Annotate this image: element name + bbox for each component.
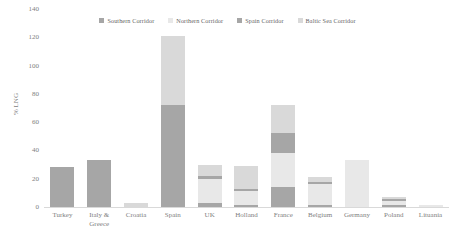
bar-stack[interactable] <box>50 167 74 207</box>
y-tick-label: 120 <box>29 33 40 41</box>
bar-segment[interactable] <box>271 133 295 153</box>
bar-column[interactable] <box>81 9 118 207</box>
bar-stack[interactable] <box>234 166 258 207</box>
x-axis-labels: TurkeyItaly &GreeceCroatiaSpainUKHolland… <box>44 211 449 228</box>
bar-stack[interactable] <box>345 160 369 207</box>
bar-column[interactable] <box>154 9 191 207</box>
bar-stack[interactable] <box>124 203 148 207</box>
y-tick-label: 140 <box>29 5 40 13</box>
bar-segment[interactable] <box>198 165 222 176</box>
x-tick-label: Belgium <box>302 211 339 228</box>
bar-segment[interactable] <box>87 160 111 184</box>
bar-stack[interactable] <box>161 36 185 207</box>
bar-segment[interactable] <box>308 205 332 207</box>
x-tick-label: Lituania <box>412 211 449 228</box>
y-axis-title: % LNG <box>12 93 20 115</box>
bar-column[interactable] <box>412 9 449 207</box>
bar-stack[interactable] <box>419 205 443 207</box>
y-tick-label: 80 <box>32 90 39 98</box>
bar-segment[interactable] <box>308 184 332 205</box>
bar-column[interactable] <box>118 9 155 207</box>
x-tick-label: France <box>265 211 302 228</box>
x-tick-label: UK <box>191 211 228 228</box>
bar-stack[interactable] <box>87 160 111 207</box>
bar-column[interactable] <box>375 9 412 207</box>
y-tick-label: 100 <box>29 62 40 70</box>
bar-column[interactable] <box>339 9 376 207</box>
lng-corridor-stacked-bar-chart: Southern CorridorNorthern CorridorSpain … <box>0 0 455 248</box>
bar-segment[interactable] <box>271 187 295 207</box>
bar-segment[interactable] <box>382 205 406 207</box>
bar-segment[interactable] <box>234 191 258 204</box>
bar-column[interactable] <box>302 9 339 207</box>
bar-stack[interactable] <box>271 105 295 207</box>
bar-column[interactable] <box>265 9 302 207</box>
y-tick-label: 0 <box>36 203 40 211</box>
x-tick-label: Spain <box>154 211 191 228</box>
bar-segment[interactable] <box>198 179 222 204</box>
bar-stack[interactable] <box>308 177 332 207</box>
plot-area: 020406080100120140 <box>44 9 449 207</box>
bar-segment[interactable] <box>124 203 148 207</box>
bar-segment[interactable] <box>161 139 185 207</box>
y-tick-label: 60 <box>32 118 39 126</box>
bar-segment[interactable] <box>345 160 369 207</box>
bar-segment[interactable] <box>50 167 74 207</box>
bar-segment[interactable] <box>271 105 295 133</box>
x-tick-label: Italy &Greece <box>81 211 118 228</box>
x-tick-label: Turkey <box>44 211 81 228</box>
bar-segment[interactable] <box>271 153 295 187</box>
bar-stack[interactable] <box>198 165 222 207</box>
bar-segment[interactable] <box>198 203 222 207</box>
x-tick-label: Croatia <box>118 211 155 228</box>
bar-segment[interactable] <box>234 166 258 189</box>
bar-column[interactable] <box>191 9 228 207</box>
bar-stack[interactable] <box>382 197 406 207</box>
bar-segment[interactable] <box>234 205 258 207</box>
bar-column[interactable] <box>44 9 81 207</box>
bar-segment[interactable] <box>87 184 111 207</box>
x-tick-label: Holland <box>228 211 265 228</box>
bar-segment[interactable] <box>419 205 443 207</box>
x-tick-label: Poland <box>375 211 412 228</box>
y-tick-label: 40 <box>32 146 39 154</box>
bar-column[interactable] <box>228 9 265 207</box>
y-tick-label: 20 <box>32 175 39 183</box>
bar-segment[interactable] <box>161 36 185 105</box>
bar-series-container <box>44 9 449 207</box>
bar-segment[interactable] <box>161 105 185 139</box>
x-tick-label: Germany <box>339 211 376 228</box>
